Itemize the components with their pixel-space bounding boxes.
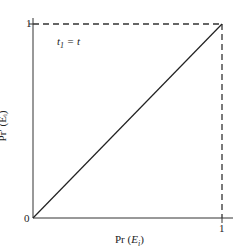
- annotation-label: t1 = t: [57, 35, 80, 50]
- y-axis-label: Pr′ (Eᵢ): [0, 111, 8, 142]
- diagram-canvas: [0, 0, 243, 251]
- xlabel-e: E: [131, 233, 138, 245]
- identity-line: [33, 24, 222, 218]
- origin-label: 0: [24, 212, 30, 224]
- x-axis-label: Pr (Ei): [115, 233, 144, 248]
- annotation-rest: = t: [64, 35, 80, 47]
- xlabel-close: ): [140, 233, 144, 245]
- xlabel-pr: Pr (: [115, 233, 131, 245]
- y-one-label: 1: [26, 17, 32, 29]
- x-one-label: 1: [219, 222, 225, 234]
